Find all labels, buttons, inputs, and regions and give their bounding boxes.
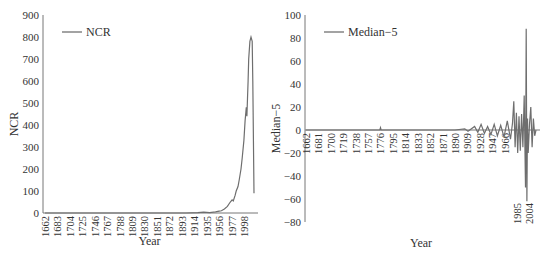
x-tick-label: 1662	[301, 133, 312, 154]
y-tick-label: 80	[290, 32, 302, 44]
figure: 0100200300400500600700800900166216831704…	[0, 0, 540, 261]
x-tick-label: 1890	[450, 133, 461, 154]
x-tick-label: 1909	[462, 133, 473, 154]
y-tick-label: −20	[284, 147, 302, 159]
median5-chart: −80−60−40−200204060801001662168117001719…	[0, 0, 540, 261]
x-tick-label: 1776	[375, 133, 386, 154]
x-tick-label: 1966	[500, 133, 511, 154]
x-tick-label: 1833	[413, 133, 424, 154]
y-axis-title: Median−5	[269, 104, 283, 153]
x-tick-label: 1814	[400, 132, 411, 154]
x-tick-label: 1928	[475, 133, 486, 154]
x-tick-label: 1738	[351, 133, 362, 154]
x-tick-label: 1719	[338, 133, 349, 154]
x-tick-label: 2004	[524, 202, 535, 224]
x-tick-label: 1985	[512, 203, 523, 224]
x-tick-label: 1852	[425, 133, 436, 154]
y-tick-label: −80	[284, 216, 302, 228]
y-tick-label: 100	[285, 9, 302, 21]
legend-label: Median−5	[348, 25, 397, 39]
y-tick-label: 20	[290, 101, 302, 113]
x-tick-label: 1947	[487, 133, 498, 154]
x-tick-label: 1757	[363, 133, 374, 154]
x-tick-label: 1681	[313, 133, 324, 154]
x-tick-label: 1795	[388, 133, 399, 154]
series-line	[306, 29, 536, 202]
y-tick-label: 40	[290, 78, 302, 90]
x-axis-title: Year	[410, 236, 432, 250]
x-tick-label: 1700	[326, 133, 337, 154]
y-tick-label: 60	[290, 55, 302, 67]
x-tick-label: 1871	[438, 133, 449, 154]
y-tick-label: −40	[284, 170, 302, 182]
y-tick-label: −60	[284, 193, 302, 205]
